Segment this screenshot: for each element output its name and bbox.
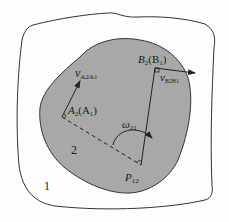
- diagram-canvas: vA2A1 A2(A1) B2(B1) vB2B1 ω21 P12 2 1: [0, 0, 229, 222]
- body-2-label: 2: [71, 143, 77, 157]
- body-1-label: 1: [44, 179, 50, 193]
- point-B-label: B2(B1): [138, 53, 167, 67]
- point-A-label: A2(A1): [67, 104, 97, 118]
